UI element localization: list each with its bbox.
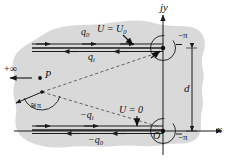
- label-potential-bottom: U = 0: [119, 105, 143, 115]
- label-infinity: +∞: [4, 64, 17, 74]
- lower-singularity-dot: [161, 129, 165, 133]
- label-qi-bottom: −qi: [80, 110, 94, 121]
- axis-label-jy: jy: [160, 2, 168, 13]
- label-branch-bottom: −π: [178, 133, 188, 142]
- point-p-dot: [38, 76, 42, 80]
- label-angle: ≅π: [30, 102, 41, 110]
- label-potential-top: U = U0: [97, 24, 127, 35]
- angle-vertex-dot: [40, 90, 44, 94]
- label-q0-top: q0: [81, 27, 89, 38]
- label-distance-d: d: [184, 83, 190, 94]
- shaded-region: [13, 21, 205, 148]
- label-qi-top: qi: [88, 52, 95, 63]
- origin-label: O: [153, 131, 160, 141]
- label-q0-bottom: −q0: [88, 135, 103, 146]
- label-point-p: P: [45, 70, 51, 80]
- upper-singularity-dot: [161, 46, 165, 50]
- label-branch-top: −π: [178, 31, 188, 40]
- axis-label-x: x: [217, 124, 222, 135]
